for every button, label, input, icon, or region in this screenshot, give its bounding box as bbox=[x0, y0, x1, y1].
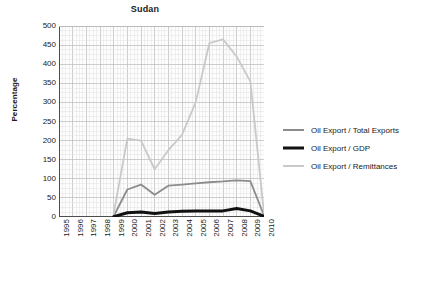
x-tick-label: 2005 bbox=[199, 219, 208, 259]
plot-area bbox=[59, 26, 264, 217]
y-tick-label: 350 bbox=[28, 79, 56, 87]
legend-item[interactable]: Oil Export / Remittances bbox=[283, 157, 430, 175]
y-tick-label: 200 bbox=[28, 137, 56, 145]
legend-item[interactable]: Oil Export / GDP bbox=[283, 139, 430, 157]
legend-item[interactable]: Oil Export / Total Exports bbox=[283, 121, 430, 139]
chart-figure: Sudan Percentage 05010015020025030035040… bbox=[0, 0, 430, 283]
y-tick-label: 250 bbox=[28, 118, 56, 126]
y-tick-label: 400 bbox=[28, 60, 56, 68]
x-tick-label: 1997 bbox=[89, 219, 98, 259]
y-tick-label: 500 bbox=[28, 22, 56, 30]
legend-line-swatch bbox=[283, 144, 304, 152]
x-tick-label: 2008 bbox=[240, 219, 249, 259]
legend-line-swatch bbox=[283, 126, 304, 134]
x-tick-label: 1996 bbox=[76, 219, 85, 259]
x-axis-tick-labels: 1995199619971998199920002001200220032004… bbox=[59, 219, 264, 279]
chart-legend: Oil Export / Total ExportsOil Export / G… bbox=[283, 121, 430, 175]
x-tick-label: 2000 bbox=[130, 219, 139, 259]
y-axis-title: Percentage bbox=[10, 65, 19, 135]
y-tick-label: 50 bbox=[28, 194, 56, 202]
x-tick-label: 2009 bbox=[253, 219, 262, 259]
x-tick-label: 2006 bbox=[212, 219, 221, 259]
x-tick-label: 2007 bbox=[226, 219, 235, 259]
series-line bbox=[114, 209, 264, 217]
x-tick-label: 2001 bbox=[144, 219, 153, 259]
legend-item-label: Oil Export / Total Exports bbox=[311, 126, 399, 135]
y-tick-label: 300 bbox=[28, 98, 56, 106]
y-tick-label: 0 bbox=[28, 213, 56, 221]
x-tick-label: 1999 bbox=[117, 219, 126, 259]
legend-item-label: Oil Export / Remittances bbox=[311, 162, 397, 171]
x-tick-label: 2004 bbox=[185, 219, 194, 259]
x-tick-label: 1995 bbox=[62, 219, 71, 259]
data-series-lines bbox=[59, 26, 264, 217]
series-line bbox=[114, 39, 264, 214]
y-axis-tick-labels: 050100150200250300350400450500 bbox=[25, 26, 56, 217]
x-tick-label: 2003 bbox=[171, 219, 180, 259]
x-tick-label: 1998 bbox=[103, 219, 112, 259]
x-tick-label: 2002 bbox=[158, 219, 167, 259]
y-tick-label: 450 bbox=[28, 41, 56, 49]
legend-item-label: Oil Export / GDP bbox=[311, 144, 370, 153]
y-tick-label: 100 bbox=[28, 175, 56, 183]
x-tick-label: 2010 bbox=[267, 219, 276, 259]
y-tick-label: 150 bbox=[28, 156, 56, 164]
legend-line-swatch bbox=[283, 162, 304, 170]
chart-title: Sudan bbox=[0, 4, 290, 14]
